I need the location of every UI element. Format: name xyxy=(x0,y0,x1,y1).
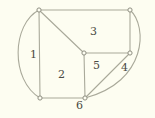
vertex-top-left xyxy=(37,8,41,12)
face-label-6: 6 xyxy=(76,100,83,111)
planar-graph-figure: 123456 xyxy=(0,0,155,118)
edge-right-middle-to-bottom-center xyxy=(85,53,130,98)
vertex-top-right xyxy=(128,8,132,12)
face-label-3: 3 xyxy=(90,26,97,37)
edge-center-to-bottom-center xyxy=(84,53,85,98)
edge-top-left-to-bottom-left xyxy=(39,10,40,98)
face-label-1: 1 xyxy=(30,49,37,60)
vertex-bottom-left xyxy=(38,96,42,100)
vertex-right-middle xyxy=(128,51,132,55)
face-label-5: 5 xyxy=(93,60,100,71)
face-label-4: 4 xyxy=(121,62,128,73)
edge-top-left-to-center xyxy=(39,10,84,53)
vertex-center xyxy=(82,51,86,55)
vertex-bottom-center xyxy=(83,96,87,100)
face-label-2: 2 xyxy=(58,69,65,80)
